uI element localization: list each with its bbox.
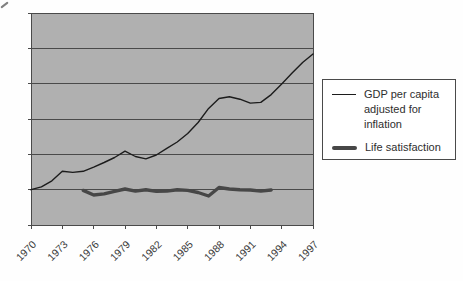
svg-text:1976: 1976 (76, 238, 101, 263)
legend-item-gdp: GDP per capita adjusted for inflation (332, 87, 451, 132)
svg-text:1988: 1988 (201, 238, 226, 263)
legend-item-life: Life satisfaction (332, 140, 451, 155)
svg-text:1982: 1982 (139, 238, 164, 263)
legend-label-gdp: GDP per capita adjusted for inflation (364, 87, 451, 132)
life-line-swatch (332, 146, 357, 150)
chart-figure: 1970197319761979198219851988199119941997… (0, 0, 463, 281)
svg-text:1994: 1994 (264, 238, 289, 263)
svg-text:1991: 1991 (233, 238, 258, 263)
svg-text:1970: 1970 (13, 238, 38, 263)
svg-text:1985: 1985 (170, 238, 195, 263)
gdp-line-swatch (332, 94, 356, 95)
legend: GDP per capita adjusted for inflation Li… (322, 79, 456, 160)
svg-text:1979: 1979 (107, 238, 132, 263)
svg-text:1997: 1997 (295, 238, 320, 263)
legend-label-life: Life satisfaction (365, 140, 451, 155)
svg-text:1973: 1973 (45, 238, 70, 263)
